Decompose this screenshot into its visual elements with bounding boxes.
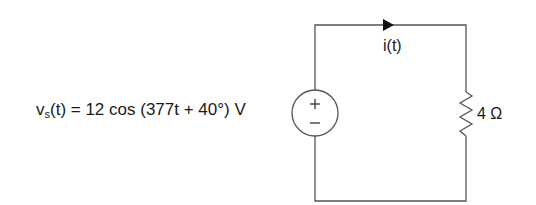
voltage-source-circle [292, 90, 338, 136]
circuit-diagram: vs(t) = 12 cos (377t + 40°) V i(t) 4 Ω [0, 0, 536, 205]
current-label: i(t) [383, 37, 402, 55]
resistor-zigzag [460, 92, 472, 136]
current-arrow-icon [383, 19, 394, 31]
source-label: vs(t) = 12 cos (377t + 40°) V [36, 100, 246, 120]
resistor-label: 4 Ω [477, 105, 502, 123]
wire-top-left [315, 25, 466, 92]
wire-bottom [315, 136, 466, 201]
